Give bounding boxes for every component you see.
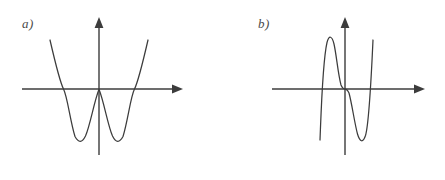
panel-a: a) <box>0 0 222 180</box>
panel-a-plot <box>0 0 222 180</box>
panel-b-x-axis-arrowhead <box>414 85 425 94</box>
panel-b-plot <box>222 0 445 180</box>
figure-container: a) b) <box>0 0 445 180</box>
panel-a-y-axis <box>95 17 104 155</box>
panel-a-x-axis <box>22 85 183 94</box>
panel-a-x-axis-arrowhead <box>172 85 183 94</box>
panel-b-y-axis-arrowhead <box>341 17 350 28</box>
panel-b: b) <box>222 0 445 180</box>
panel-a-y-axis-arrowhead <box>95 17 104 28</box>
